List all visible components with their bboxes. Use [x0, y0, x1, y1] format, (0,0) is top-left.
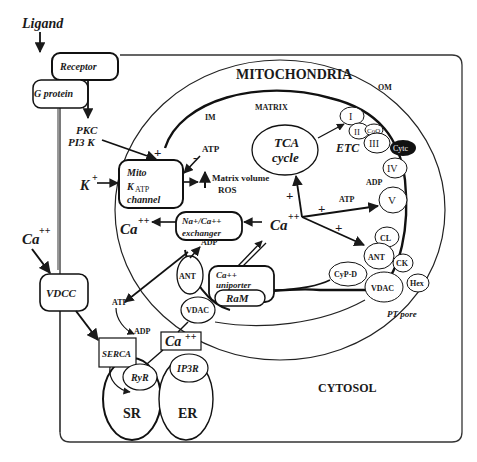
svg-text:V: V — [388, 194, 396, 206]
pkc-label: PKC — [76, 124, 98, 136]
svg-text:IV: IV — [387, 163, 398, 174]
svg-text:CK: CK — [396, 259, 409, 268]
svg-text:VDAC: VDAC — [371, 284, 394, 293]
svg-text:++: ++ — [288, 211, 300, 222]
svg-text:ATP: ATP — [135, 185, 150, 194]
ros-label: ROS — [218, 185, 237, 195]
svg-text:Mito: Mito — [126, 167, 146, 178]
svg-text:+: + — [318, 201, 325, 216]
svg-text:I: I — [349, 111, 352, 122]
extracellular-ca-label: Ca — [22, 231, 40, 247]
diagram-canvas: Ligand Receptor G protein PKC PI3 K + Mi… — [0, 0, 477, 462]
svg-text:uniporter: uniporter — [216, 280, 252, 290]
svg-text:TCA: TCA — [274, 135, 300, 150]
svg-text:IP3R: IP3R — [176, 363, 199, 374]
svg-text:ADP: ADP — [134, 327, 151, 336]
svg-text:ETC: ETC — [335, 141, 360, 155]
svg-text:Hex: Hex — [410, 279, 424, 288]
svg-text:OM: OM — [378, 83, 392, 92]
svg-text:ATP: ATP — [112, 298, 128, 307]
svg-text:++: ++ — [39, 225, 51, 236]
svg-text:ADP: ADP — [366, 178, 383, 187]
svg-text:cycle: cycle — [272, 150, 299, 165]
svg-text:++: ++ — [138, 215, 150, 226]
svg-text:MATRIX: MATRIX — [255, 103, 288, 112]
svg-text:IM: IM — [205, 113, 216, 122]
svg-text:ATP: ATP — [202, 144, 220, 154]
svg-text:+: + — [335, 220, 342, 235]
svg-text:+: + — [286, 188, 293, 203]
svg-text:ANT: ANT — [179, 272, 197, 281]
pi3k-label: PI3 K — [68, 136, 95, 148]
svg-text:ADP: ADP — [201, 238, 218, 247]
mitochondria-title: MITOCHONDRIA — [236, 67, 353, 82]
svg-text:Na+/Ca++: Na+/Ca++ — [181, 216, 221, 226]
svg-text:SR: SR — [123, 406, 142, 421]
svg-text:Ca++: Ca++ — [216, 270, 237, 280]
svg-text:K: K — [79, 178, 91, 193]
g-protein-label: G protein — [34, 88, 74, 99]
pt-pore-label: PT pore — [387, 309, 417, 319]
svg-text:K: K — [126, 181, 135, 192]
matrix-volume-label: Matrix volume — [212, 173, 269, 183]
svg-text:+: + — [154, 145, 161, 160]
svg-text:CL: CL — [380, 234, 391, 243]
svg-text:ATP: ATP — [339, 195, 355, 204]
svg-text:+: + — [92, 172, 98, 183]
matrix-ca-label: Ca — [270, 217, 288, 233]
svg-text:III: III — [369, 138, 379, 149]
svg-text:channel: channel — [127, 194, 161, 205]
svg-text:SERCA: SERCA — [102, 349, 131, 359]
svg-text:RaM: RaM — [225, 292, 250, 304]
svg-text:exchanger: exchanger — [182, 228, 221, 238]
svg-text:II: II — [354, 127, 360, 137]
ligand-label: Ligand — [21, 16, 64, 31]
receptor-label: Receptor — [59, 61, 97, 72]
svg-text:++: ++ — [185, 331, 197, 342]
svg-text:Ca: Ca — [165, 334, 181, 349]
svg-text:Cytc: Cytc — [393, 144, 409, 153]
svg-text:ER: ER — [178, 406, 198, 421]
cytosol-label: CYTOSOL — [318, 381, 376, 395]
svg-text:ANT: ANT — [368, 253, 386, 262]
svg-text:CyP-D: CyP-D — [334, 270, 357, 279]
svg-text:VDAC: VDAC — [186, 306, 209, 315]
svg-text:Ca: Ca — [120, 221, 138, 237]
svg-text:RyR: RyR — [130, 372, 149, 383]
svg-text:VDCC: VDCC — [46, 287, 77, 299]
